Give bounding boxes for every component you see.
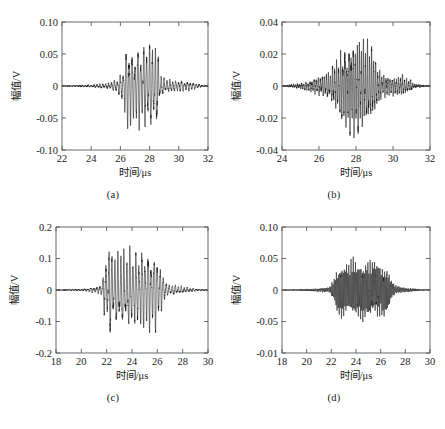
y-tick-label-a-2: 0 <box>53 81 58 92</box>
y-tick-label-a-3: 0.05 <box>40 49 58 60</box>
x-tick-label-c-0: 18 <box>51 356 62 367</box>
y-tick-label-d-4: 0.10 <box>260 222 278 233</box>
y-axis-title-d: 幅值/V <box>230 274 242 305</box>
plot-b: 2426283032-0.04-0.0200.020.04幅值/V时间/μs <box>226 8 442 190</box>
plot-area-c: 18202224262830-0.2-0.100.10.2幅值/V时间/μs <box>4 215 222 393</box>
x-tick-label-a-0: 22 <box>57 153 68 164</box>
x-axis-title-a: 时间/μs <box>119 166 152 178</box>
x-tick-label-c-5: 28 <box>177 356 188 367</box>
panel-d: 18202224262830-0.01-0.0500.050.10幅值/V时间/… <box>226 215 442 415</box>
x-tick-label-d-5: 28 <box>400 356 411 367</box>
ghost-footer-text <box>60 418 390 429</box>
y-tick-label-d-1: -0.05 <box>256 316 278 327</box>
x-tick-label-c-1: 20 <box>76 356 87 367</box>
y-tick-label-c-4: 0.2 <box>39 222 52 233</box>
panel-b: 2426283032-0.04-0.0200.020.04幅值/V时间/μs (… <box>226 8 442 213</box>
x-tick-label-c-2: 22 <box>101 356 112 367</box>
y-tick-label-c-1: -0.1 <box>35 316 52 327</box>
waveform-trace-b <box>282 39 430 138</box>
x-tick-label-d-3: 24 <box>351 356 362 367</box>
plot-area-d: 18202224262830-0.01-0.0500.050.10幅值/V时间/… <box>226 215 442 393</box>
y-tick-label-c-0: -0.2 <box>35 348 52 359</box>
waveform-trace-c <box>56 246 208 333</box>
x-tick-label-b-0: 24 <box>277 153 288 164</box>
y-tick-label-d-3: 0.05 <box>260 253 278 264</box>
y-tick-label-b-1: -0.02 <box>256 113 278 124</box>
x-tick-label-d-1: 20 <box>301 356 312 367</box>
panel-caption-d: (d) <box>226 392 442 403</box>
plot-area-b: 2426283032-0.04-0.0200.020.04幅值/V时间/μs <box>226 8 442 190</box>
x-tick-label-d-4: 26 <box>375 356 386 367</box>
panel-a: 222426283032-0.10-0.0500.050.10幅值/V时间/μs… <box>4 8 222 213</box>
y-tick-label-a-0: -0.10 <box>36 145 58 156</box>
y-tick-label-b-2: 0 <box>273 81 278 92</box>
x-tick-label-b-2: 28 <box>351 153 362 164</box>
x-tick-label-a-5: 32 <box>203 153 214 164</box>
y-tick-label-c-2: 0 <box>47 285 52 296</box>
panel-c: 18202224262830-0.2-0.100.10.2幅值/V时间/μs (… <box>4 215 222 415</box>
plot-d: 18202224262830-0.01-0.0500.050.10幅值/V时间/… <box>226 215 442 393</box>
x-tick-label-c-4: 26 <box>152 356 163 367</box>
x-axis-title-c: 时间/μs <box>116 369 149 381</box>
plot-area-a: 222426283032-0.10-0.0500.050.10幅值/V时间/μs <box>4 8 222 190</box>
y-tick-label-b-0: -0.04 <box>256 145 279 156</box>
x-tick-label-a-2: 26 <box>115 153 126 164</box>
y-tick-label-b-4: 0.04 <box>260 17 279 28</box>
x-tick-label-b-1: 26 <box>314 153 325 164</box>
y-axis-title-c: 幅值/V <box>8 274 20 305</box>
x-tick-label-c-6: 30 <box>203 356 214 367</box>
x-tick-label-a-1: 24 <box>86 153 97 164</box>
y-tick-label-c-3: 0.1 <box>39 253 52 264</box>
y-axis-title-a: 幅值/V <box>10 70 22 101</box>
y-tick-label-a-1: -0.05 <box>36 113 58 124</box>
x-tick-label-d-2: 22 <box>326 356 337 367</box>
y-tick-label-d-0: -0.01 <box>256 348 278 359</box>
y-tick-label-d-2: 0 <box>273 285 278 296</box>
panel-caption-c: (c) <box>4 392 222 403</box>
y-tick-label-a-4: 0.10 <box>40 17 58 28</box>
y-axis-title-b: 幅值/V <box>230 70 242 101</box>
x-tick-label-a-3: 28 <box>144 153 155 164</box>
x-axis-title-b: 时间/μs <box>340 166 373 178</box>
waveform-trace-a <box>62 45 208 131</box>
x-tick-label-b-3: 30 <box>388 153 399 164</box>
waveform-trace-d <box>282 257 430 322</box>
figure-panel-grid: 222426283032-0.10-0.0500.050.10幅值/V时间/μs… <box>0 0 445 429</box>
x-tick-label-d-6: 30 <box>425 356 436 367</box>
x-axis-title-d: 时间/μs <box>340 369 373 381</box>
x-tick-label-d-0: 18 <box>277 356 288 367</box>
x-tick-label-b-4: 32 <box>425 153 436 164</box>
plot-c: 18202224262830-0.2-0.100.10.2幅值/V时间/μs <box>4 215 222 393</box>
x-tick-label-c-3: 24 <box>127 356 138 367</box>
panel-caption-a: (a) <box>4 189 222 200</box>
plot-a: 222426283032-0.10-0.0500.050.10幅值/V时间/μs <box>4 8 222 190</box>
panel-caption-b: (b) <box>226 189 442 200</box>
y-tick-label-b-3: 0.02 <box>260 49 278 60</box>
x-tick-label-a-4: 30 <box>174 153 185 164</box>
